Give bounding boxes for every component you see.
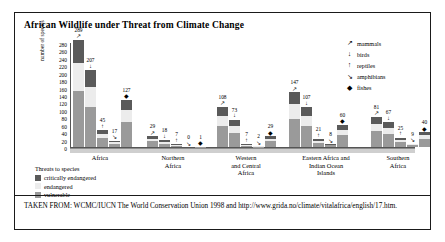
chart-page: African Wildlife under Threat from Clima… <box>0 0 445 242</box>
bar-fishes <box>121 100 132 147</box>
bar-fishes <box>265 136 276 147</box>
bar-segment-vuln <box>337 135 348 147</box>
bird-icon: ↓ <box>387 115 390 121</box>
bar-segment-endg <box>217 116 228 126</box>
fish-icon: ◆ <box>344 84 355 92</box>
bar-group: 29↗18↓7↑0↘1◆ <box>147 43 207 147</box>
bar-segment-endg <box>73 63 84 91</box>
threat-legend-label: endangered <box>44 183 73 190</box>
amphibian-icon: ↘ <box>256 139 261 146</box>
y-tick-label: 100 <box>59 109 67 115</box>
reptile-icon: ↑ <box>175 137 178 143</box>
bar-segment-vuln <box>147 141 158 147</box>
amphibian-icon: ↘ <box>112 133 117 140</box>
bar-reptiles <box>395 138 406 147</box>
chart-frame: African Wildlife under Threat from Clima… <box>14 12 431 230</box>
bar-segment-crit <box>289 92 300 104</box>
bar-segment-vuln <box>371 131 382 147</box>
bar-reptiles <box>171 144 182 147</box>
x-axis-label-line: Africa <box>350 162 445 170</box>
bar-amphibians <box>253 146 264 147</box>
bar-segment-crit <box>217 107 228 116</box>
bar-segment-vuln <box>217 126 228 147</box>
fish-icon: ◆ <box>124 92 129 99</box>
legend-item-label: mammals <box>357 40 381 47</box>
bar-birds <box>229 120 240 147</box>
bar-group: 108↗73↓7↑2↘29◆ <box>217 43 283 147</box>
legend-item-label: reptiles <box>357 62 375 69</box>
reptile-icon: ↑ <box>317 132 320 138</box>
x-axis-baseline-band <box>70 148 415 153</box>
bar-segment-vuln <box>289 119 300 147</box>
bar-amphibians <box>325 144 336 147</box>
bar-fishes <box>419 132 430 147</box>
bar-segment-vuln <box>395 142 406 147</box>
bar-segment-vuln <box>325 145 336 147</box>
bar-segment-endg <box>85 87 96 107</box>
legend-item: ↓birds <box>344 50 418 58</box>
y-tick-label: 140 <box>59 94 67 100</box>
bar-birds <box>301 107 312 147</box>
amphibian-icon: ↘ <box>328 137 333 144</box>
threat-legend-item: critically endangered <box>35 174 155 181</box>
y-axis-ticks: 280260240220200180160140120100806040200 <box>47 45 69 145</box>
bird-icon: ↓ <box>233 112 236 118</box>
threat-legend-title: Threats to species <box>35 165 155 172</box>
y-tick-label: 200 <box>59 72 67 78</box>
bar-fishes <box>337 125 348 147</box>
mammal-icon: ↗ <box>344 39 355 47</box>
fish-icon: ◆ <box>268 129 273 136</box>
amphibian-icon: ↘ <box>410 136 415 143</box>
footer-divider <box>15 195 430 196</box>
fish-icon: ◆ <box>422 125 427 132</box>
mammal-icon: ↗ <box>220 99 225 106</box>
bar-amphibians <box>109 141 120 147</box>
mammal-icon: ↗ <box>76 32 81 39</box>
reptile-icon: ↑ <box>399 130 402 136</box>
bar-mammals <box>217 107 228 147</box>
legend-item: ↘amphibians <box>344 73 418 81</box>
source-note: TAKEN FROM: WCMC/IUCN The World Conserva… <box>24 201 422 211</box>
amphibian-icon: ↘ <box>344 73 355 81</box>
amphibian-icon: ↘ <box>186 140 191 147</box>
threat-legend-label: critically endangered <box>44 174 96 181</box>
bar-segment-vuln <box>109 144 120 147</box>
y-tick-label: 40 <box>62 131 67 137</box>
y-tick-label: 0 <box>64 146 67 152</box>
legend-item-label: fishes <box>357 84 371 91</box>
bar-segment-crit <box>85 70 96 87</box>
bar-segment-endg <box>229 126 240 133</box>
legend-item: ↑reptiles <box>344 61 418 69</box>
bar-segment-vuln <box>73 91 84 147</box>
legend-item: ↗mammals <box>344 39 418 47</box>
bar-segment-vuln <box>241 146 252 147</box>
y-axis-label: number of species <box>39 20 45 61</box>
y-tick-label: 280 <box>59 42 67 48</box>
x-axis-label: SouthernAfrica <box>350 154 445 169</box>
y-tick-label: 20 <box>62 139 67 145</box>
bar-reptiles <box>97 130 108 147</box>
reptile-icon: ↑ <box>344 61 355 69</box>
bar-segment-vuln <box>383 134 394 147</box>
bar-segment-endg <box>371 124 382 132</box>
reptile-icon: ↑ <box>245 137 248 143</box>
reptile-icon: ↑ <box>101 123 104 129</box>
bar-group: 289↗207↓45↑17↘127◆ <box>73 43 135 147</box>
bar-amphibians <box>407 144 418 147</box>
bar-mammals <box>147 136 158 147</box>
bar-birds <box>85 70 96 147</box>
x-axis-label-line: Southern <box>350 154 445 162</box>
bar-segment-vuln <box>265 141 276 147</box>
x-axis-label-line: Islands <box>268 169 384 177</box>
bar-segment-crit <box>73 40 84 64</box>
bird-icon: ↓ <box>89 63 92 69</box>
bar-segment-crit <box>371 117 382 124</box>
y-tick-label: 60 <box>62 124 67 130</box>
bird-icon: ↓ <box>305 100 308 106</box>
bar-mammals <box>371 117 382 147</box>
y-tick-label: 120 <box>59 101 67 107</box>
threat-swatch-crit <box>35 175 41 181</box>
bar-segment-vuln <box>229 133 240 147</box>
y-tick-label: 240 <box>59 57 67 63</box>
bar-segment-vuln <box>313 143 324 147</box>
